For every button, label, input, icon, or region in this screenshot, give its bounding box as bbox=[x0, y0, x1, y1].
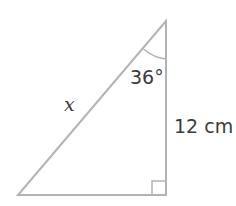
right-angle-marker bbox=[152, 181, 166, 195]
angle-label: 36° bbox=[130, 66, 164, 88]
hypotenuse-label: x bbox=[64, 93, 75, 115]
side-length-label: 12 cm bbox=[174, 115, 233, 137]
triangle-diagram: 36° x 12 cm bbox=[0, 0, 236, 206]
angle-arc bbox=[144, 49, 167, 59]
right-triangle bbox=[18, 21, 166, 195]
